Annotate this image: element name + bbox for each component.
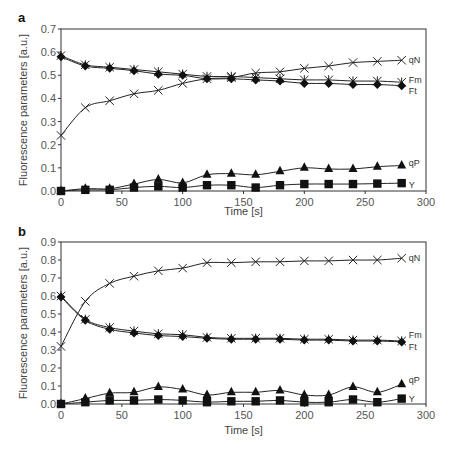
panel-label: b — [18, 224, 26, 239]
diamond-marker-icon — [105, 64, 114, 73]
triangle-marker-icon — [154, 174, 163, 183]
triangle-marker-icon — [227, 168, 236, 177]
square-marker-icon — [130, 183, 138, 191]
square-marker-icon — [276, 181, 284, 189]
y-tick-label: 0.7 — [41, 23, 56, 35]
diamond-marker-icon — [154, 70, 163, 79]
series-line — [61, 258, 402, 346]
square-marker-icon — [397, 179, 405, 187]
x-tick-label: 300 — [417, 409, 435, 421]
triangle-marker-icon — [324, 164, 333, 173]
triangle-marker-icon — [349, 381, 358, 390]
series-label-Fm: Fm — [409, 330, 422, 340]
square-marker-icon — [349, 395, 357, 403]
triangle-marker-icon — [300, 162, 309, 171]
triangle-marker-icon — [251, 169, 260, 178]
y-tick-label: 0.6 — [41, 290, 56, 302]
triangle-marker-icon — [227, 387, 236, 396]
x-marker-icon — [105, 279, 113, 287]
x-tick-label: 50 — [116, 409, 128, 421]
series-label-Y: Y — [409, 394, 415, 404]
triangle-marker-icon — [300, 390, 309, 399]
y-tick-label: 0.5 — [41, 69, 56, 81]
square-marker-icon — [251, 183, 259, 191]
diamond-marker-icon — [276, 335, 285, 344]
y-tick-label: 0.9 — [41, 236, 56, 248]
triangle-marker-icon — [178, 384, 187, 393]
y-tick-label: 0.2 — [41, 362, 56, 374]
series-Y: Y — [57, 179, 415, 195]
triangle-marker-icon — [154, 381, 163, 390]
triangle-marker-icon — [397, 160, 406, 169]
y-tick-label: 0.1 — [41, 380, 56, 392]
triangle-marker-icon — [373, 387, 382, 396]
chart-panel-a: a0.00.10.20.30.40.50.60.7050100150200250… — [17, 10, 435, 217]
x-marker-icon — [178, 79, 186, 87]
square-marker-icon — [300, 180, 308, 188]
square-marker-icon — [178, 183, 186, 191]
triangle-marker-icon — [397, 379, 406, 388]
x-tick-label: 100 — [173, 409, 191, 421]
square-marker-icon — [203, 398, 211, 406]
x-axis-label: Time [s] — [224, 424, 263, 436]
series-Ft: Ft — [57, 52, 418, 95]
triangle-marker-icon — [105, 388, 114, 397]
y-tick-label: 0.0 — [41, 185, 56, 197]
diamond-marker-icon — [154, 331, 163, 340]
series-label-qP: qP — [409, 375, 420, 385]
x-axis-label: Time [s] — [224, 205, 263, 217]
triangle-marker-icon — [203, 169, 212, 178]
square-marker-icon — [178, 396, 186, 404]
x-tick-label: 250 — [356, 196, 374, 208]
square-marker-icon — [324, 398, 332, 406]
x-tick-label: 250 — [356, 409, 374, 421]
x-tick-label: 100 — [173, 196, 191, 208]
y-tick-label: 0.3 — [41, 116, 56, 128]
diamond-marker-icon — [251, 335, 260, 344]
fluorescence-chart-figure: a0.00.10.20.30.40.50.60.7050100150200250… — [0, 0, 453, 450]
x-tick-label: 150 — [234, 409, 252, 421]
y-tick-label: 0.1 — [41, 162, 56, 174]
triangle-marker-icon — [251, 387, 260, 396]
diamond-marker-icon — [81, 62, 90, 71]
diamond-marker-icon — [130, 66, 139, 75]
triangle-marker-icon — [373, 161, 382, 170]
diamond-marker-icon — [130, 328, 139, 337]
square-marker-icon — [300, 398, 308, 406]
chart-panel-b: b0.00.10.20.30.40.50.60.70.80.9050100150… — [17, 224, 435, 436]
diamond-marker-icon — [227, 335, 236, 344]
x-tick-label: 200 — [295, 409, 313, 421]
y-tick-label: 0.3 — [41, 344, 56, 356]
x-marker-icon — [81, 103, 89, 111]
diamond-marker-icon — [349, 337, 358, 346]
series-label-Ft: Ft — [409, 86, 417, 96]
diamond-marker-icon — [203, 334, 212, 343]
x-marker-icon — [81, 297, 89, 305]
panel-label: a — [18, 10, 26, 25]
square-marker-icon — [349, 180, 357, 188]
square-marker-icon — [105, 396, 113, 404]
diamond-marker-icon — [178, 332, 187, 341]
figure: a0.00.10.20.30.40.50.60.7050100150200250… — [0, 0, 453, 450]
plot-frame — [61, 242, 426, 404]
square-marker-icon — [227, 397, 235, 405]
square-marker-icon — [276, 396, 284, 404]
plot-frame — [61, 29, 426, 191]
series-label-Ft: Ft — [409, 342, 417, 352]
square-marker-icon — [57, 400, 65, 408]
y-tick-label: 0.7 — [41, 272, 56, 284]
series-label-qN: qN — [409, 55, 421, 65]
diamond-marker-icon — [276, 77, 285, 86]
diamond-marker-icon — [397, 337, 406, 346]
x-tick-label: 0 — [58, 409, 64, 421]
series-Ft: Ft — [57, 292, 418, 352]
diamond-marker-icon — [373, 337, 382, 346]
x-marker-icon — [154, 86, 162, 94]
series-label-Fm: Fm — [409, 75, 422, 85]
triangle-marker-icon — [276, 385, 285, 394]
series-label-qP: qP — [409, 158, 420, 168]
square-marker-icon — [251, 397, 259, 405]
square-marker-icon — [227, 181, 235, 189]
square-marker-icon — [57, 187, 65, 195]
square-marker-icon — [397, 394, 405, 402]
